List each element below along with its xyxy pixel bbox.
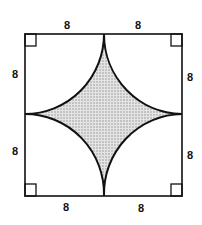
- label-top-right: 8: [135, 19, 141, 31]
- label-right-top: 8: [187, 71, 193, 83]
- label-bottom-left: 8: [63, 201, 69, 213]
- label-top-left: 8: [64, 19, 70, 31]
- label-left-top: 8: [12, 68, 18, 80]
- square-diagram: [0, 0, 202, 225]
- right-angle-marker-tr: [171, 34, 182, 46]
- right-angle-marker-tl: [25, 34, 36, 46]
- right-angle-marker-bl: [25, 184, 36, 196]
- label-left-bottom: 8: [12, 145, 18, 157]
- label-bottom-right: 8: [138, 202, 144, 214]
- label-right-bottom: 8: [187, 149, 193, 161]
- shaded-region: [25, 34, 182, 196]
- right-angle-marker-br: [171, 184, 182, 196]
